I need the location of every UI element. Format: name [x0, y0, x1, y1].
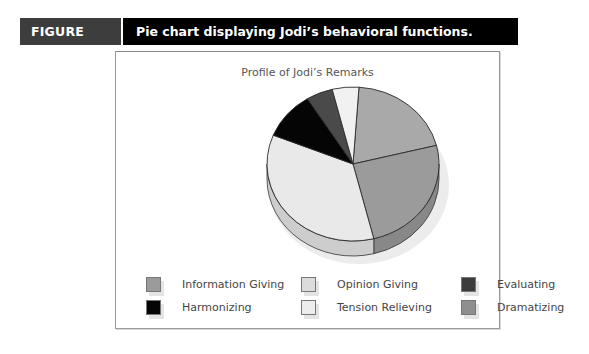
legend-label: Dramatizing	[497, 301, 564, 314]
legend-swatch	[301, 300, 316, 315]
figure-caption: Pie chart displaying Jodi’s behavioral f…	[123, 18, 518, 45]
legend-label: Evaluating	[497, 278, 555, 291]
legend-item-harmonizing: Harmonizing	[146, 300, 252, 315]
legend-item-dramatizing: Dramatizing	[461, 300, 564, 315]
legend-swatch	[146, 277, 161, 292]
figure-header: FIGURE 15.6 Pie chart displaying Jodi’s …	[20, 18, 518, 45]
legend-label: Harmonizing	[182, 301, 252, 314]
figure-label: FIGURE 15.6	[20, 18, 121, 45]
legend-swatch	[146, 300, 161, 315]
legend-label: Information Giving	[182, 278, 284, 291]
legend-item-evaluating: Evaluating	[461, 277, 555, 292]
legend-label: Opinion Giving	[337, 278, 418, 291]
legend-item-information-giving: Information Giving	[146, 277, 284, 292]
legend-swatch	[301, 277, 316, 292]
legend-swatch	[461, 277, 476, 292]
chart-panel: Profile of Jodi’s Remarks Information Gi…	[115, 51, 500, 329]
legend-swatch	[461, 300, 476, 315]
pie-chart	[116, 52, 499, 272]
legend-item-opinion-giving: Opinion Giving	[301, 277, 418, 292]
legend-label: Tension Relieving	[337, 301, 432, 314]
legend-item-tension-relieving: Tension Relieving	[301, 300, 432, 315]
